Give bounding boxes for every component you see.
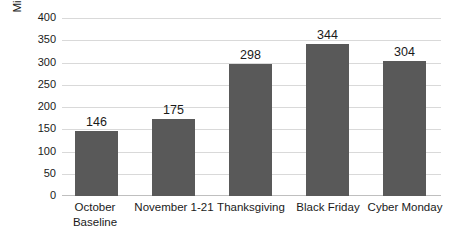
- bar-chart: Millions 400 350 300 250 200 150 100 50 …: [0, 0, 460, 244]
- bar-slot: 344: [306, 18, 349, 196]
- bar[interactable]: [383, 61, 426, 196]
- y-axis-tick-label: 50: [24, 168, 56, 179]
- y-axis-tick-label: 300: [24, 57, 56, 68]
- bar-slot: 175: [152, 18, 195, 196]
- category-label-line: Thanksgiving: [212, 200, 290, 215]
- y-axis-tick-label: 350: [24, 34, 56, 45]
- y-axis-tick-label: 200: [24, 101, 56, 112]
- bar-value-label: 304: [363, 45, 446, 59]
- x-axis-category-label: October Baseline: [56, 200, 134, 230]
- bar-value-label: 175: [132, 103, 215, 117]
- x-axis-category-labels: October Baseline November 1-21 Thanksgiv…: [62, 200, 441, 242]
- bar[interactable]: [75, 131, 118, 196]
- category-label-line: Cyber Monday: [365, 200, 445, 215]
- x-axis-category-label: Black Friday: [289, 200, 367, 215]
- plot-area: 146 175 298 344 304: [62, 18, 441, 196]
- y-axis-tick-labels: 400 350 300 250 200 150 100 50 0: [22, 18, 56, 196]
- y-axis-tick-label: 400: [24, 12, 56, 23]
- x-axis-category-label: November 1-21: [130, 200, 218, 215]
- category-label-line: Black Friday: [289, 200, 367, 215]
- category-label-line: October: [56, 200, 134, 215]
- y-axis-tick-label: 150: [24, 123, 56, 134]
- x-axis-category-label: Cyber Monday: [365, 200, 445, 215]
- category-label-line: November 1-21: [130, 200, 218, 215]
- bar[interactable]: [229, 64, 272, 196]
- bar-slot: 146: [75, 18, 118, 196]
- bar-slot: 298: [229, 18, 272, 196]
- bar-value-label: 344: [286, 28, 369, 42]
- bar[interactable]: [152, 119, 195, 196]
- category-label-line: Baseline: [56, 215, 134, 230]
- y-axis-tick-label: 100: [24, 146, 56, 157]
- y-axis-tick-label: 0: [24, 190, 56, 201]
- x-axis-category-label: Thanksgiving: [212, 200, 290, 215]
- bar-slot: 304: [383, 18, 426, 196]
- y-axis-tick-label: 250: [24, 79, 56, 90]
- bar[interactable]: [306, 44, 349, 196]
- bar-value-label: 298: [209, 48, 292, 62]
- bar-value-label: 146: [55, 115, 138, 129]
